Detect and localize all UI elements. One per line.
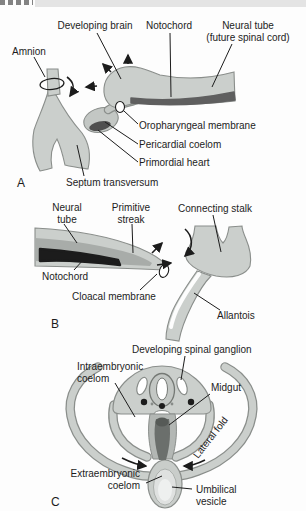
label-oropharyngeal-membrane: Oropharyngeal membrane bbox=[139, 120, 267, 132]
allantois-tube bbox=[166, 271, 211, 341]
label-extraembryonic-coelom-line1: Extraembryonic bbox=[71, 468, 140, 479]
label-notochord-b: Notochord bbox=[42, 271, 96, 283]
label-allantois: Allantois bbox=[217, 310, 263, 322]
label-umbilical-vesicle-line1: Umbilical bbox=[196, 484, 237, 495]
label-connecting-stalk: Connecting stalk bbox=[178, 203, 264, 215]
panel-letter-a: A bbox=[17, 176, 25, 190]
label-pericardial-coelom: Pericardial coelom bbox=[139, 139, 239, 151]
label-neural-tube-b: Neural tube bbox=[46, 202, 88, 225]
label-intraembryonic-coelom: Intraembryonic coelom bbox=[77, 361, 159, 384]
panel-a-drawing bbox=[33, 33, 235, 176]
label-neural-tube-a-line1: Neural tube bbox=[222, 20, 274, 31]
label-neural-tube-a: Neural tube (future spinal cord) bbox=[198, 20, 298, 43]
label-intraembryonic-coelom-line1: Intraembryonic bbox=[77, 361, 143, 372]
label-notochord-a: Notochord bbox=[142, 20, 196, 32]
label-primitive-streak: Primitive streak bbox=[104, 202, 158, 225]
figure-artwork bbox=[0, 0, 306, 511]
label-developing-brain: Developing brain bbox=[55, 20, 135, 32]
label-primitive-streak-line2: streak bbox=[117, 214, 144, 225]
label-amnion: Amnion bbox=[12, 46, 54, 58]
label-septum-transversum: Septum transversum bbox=[66, 177, 176, 189]
label-neural-tube-b-line2: tube bbox=[57, 214, 76, 225]
oropharyngeal-membrane-shape bbox=[116, 102, 125, 113]
label-umbilical-vesicle: Umbilical vesicle bbox=[196, 484, 256, 507]
label-extraembryonic-coelom: Extraembryonic coelom bbox=[48, 468, 140, 491]
label-primitive-streak-line1: Primitive bbox=[112, 202, 150, 213]
label-extraembryonic-coelom-line2: coelom bbox=[108, 480, 140, 491]
midgut-top bbox=[156, 418, 169, 427]
label-primordial-heart: Primordial heart bbox=[139, 157, 239, 169]
label-midgut: Midgut bbox=[211, 382, 251, 394]
umbilical-vesicle-core bbox=[158, 479, 172, 501]
septum-transversum-mass bbox=[33, 92, 90, 171]
label-neural-tube-b-line1: Neural bbox=[52, 202, 81, 213]
panel-letter-b: B bbox=[51, 317, 59, 331]
label-umbilical-vesicle-line2: vesicle bbox=[196, 496, 227, 507]
embryo-folding-figure: Developing brain Notochord Neural tube (… bbox=[0, 0, 306, 511]
connecting-stalk-shape bbox=[186, 226, 251, 277]
label-neural-tube-a-line2: (future spinal cord) bbox=[206, 32, 289, 43]
label-cloacal-membrane: Cloacal membrane bbox=[72, 291, 164, 303]
label-intraembryonic-coelom-line2: coelom bbox=[77, 373, 109, 384]
panel-letter-c: C bbox=[51, 495, 60, 509]
label-developing-spinal-ganglion: Developing spinal ganglion bbox=[132, 344, 264, 356]
amnion-tube bbox=[47, 69, 60, 96]
